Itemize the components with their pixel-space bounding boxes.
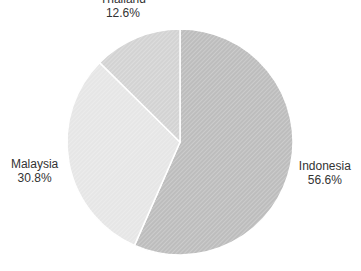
pct-label-malaysia: 30.8% <box>18 171 52 185</box>
pct-label-indonesia: 56.6% <box>308 173 342 187</box>
pie-slices <box>67 29 293 255</box>
pct-label-thailand: 12.6% <box>106 6 140 20</box>
label-indonesia: Indonesia <box>299 159 351 173</box>
pie-chart: Indonesia56.6%Malaysia30.8%Thailand12.6% <box>0 0 361 271</box>
label-malaysia: Malaysia <box>11 157 59 171</box>
